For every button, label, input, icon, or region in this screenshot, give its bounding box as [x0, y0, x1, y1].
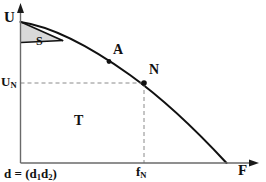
- region-label-t: T: [74, 114, 83, 128]
- x-tick-subscript: N: [140, 170, 146, 180]
- point-a-marker: [107, 59, 112, 64]
- y-axis-label: U: [4, 10, 15, 25]
- y-tick-label-un: UN: [1, 75, 17, 89]
- y-tick-base: U: [1, 74, 10, 89]
- y-tick-subscript: N: [10, 80, 16, 90]
- point-n-marker: [141, 80, 147, 86]
- origin-prefix: d = (d: [4, 166, 37, 181]
- point-label-n: N: [149, 63, 159, 77]
- plot-canvas: [0, 0, 266, 182]
- x-axis-label: F: [238, 163, 247, 178]
- y-axis-arrow-icon: [17, 3, 24, 13]
- x-tick-label-fn: fN: [136, 165, 147, 179]
- frontier-curve: [21, 22, 227, 163]
- point-label-a: A: [113, 43, 123, 57]
- x-axis-arrow-icon: [249, 160, 259, 167]
- region-label-s: S: [36, 35, 43, 47]
- origin-suffix: ): [53, 166, 57, 181]
- origin-label: d = (d1d2): [4, 167, 57, 181]
- figure-container: U F UN fN d = (d1d2) S T A N: [0, 0, 266, 182]
